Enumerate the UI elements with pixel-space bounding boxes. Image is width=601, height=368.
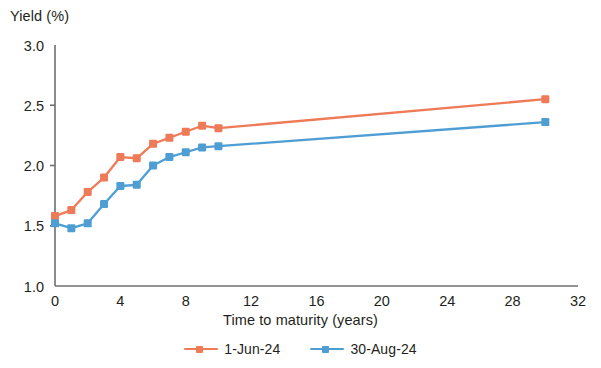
x-axis-tick-labels: 048121620242832 [51,293,586,309]
x-tick-label-4: 4 [116,293,124,309]
data-point-2-3 [100,200,108,208]
data-point-1-4 [116,153,124,161]
series-line-1 [55,99,545,216]
data-point-2-4 [116,182,124,190]
data-point-2-0 [51,219,59,227]
y-tick-label-3.0: 3.0 [24,38,44,54]
data-point-1-7 [165,134,173,142]
x-tick-label-8: 8 [182,293,190,309]
y-axis-tick-labels: 1.01.52.02.53.0 [24,38,44,295]
yield-curve-chart: Yield (%) 1.01.52.02.53.0 04812162024283… [0,0,601,368]
x-tick-label-32: 32 [570,293,586,309]
legend-swatch-series-1 [184,343,218,355]
data-point-2-30 [541,118,549,126]
x-axis-label: Time to maturity (years) [0,312,601,328]
legend-label-series-2: 30-Aug-24 [350,341,416,357]
data-point-1-3 [100,174,108,182]
data-point-2-1 [67,224,75,232]
y-tick-label-1.5: 1.5 [24,218,44,234]
data-point-1-1 [67,206,75,214]
series-1 [51,95,549,220]
data-point-1-8 [182,128,190,136]
x-tick-label-20: 20 [374,293,390,309]
y-tick-label-2.5: 2.5 [24,98,44,114]
legend-item-series-1[interactable]: 1-Jun-24 [184,341,280,357]
y-tick-label-1.0: 1.0 [24,279,44,295]
data-point-2-6 [149,162,157,170]
data-point-2-9 [198,143,206,151]
legend-label-series-1: 1-Jun-24 [224,341,280,357]
x-tick-label-24: 24 [439,293,455,309]
data-point-2-7 [165,153,173,161]
data-point-2-10 [214,142,222,150]
data-point-1-30 [541,95,549,103]
legend-item-series-2[interactable]: 30-Aug-24 [310,341,416,357]
data-point-1-10 [214,124,222,132]
x-tick-label-12: 12 [243,293,259,309]
x-tick-label-0: 0 [51,293,59,309]
x-tick-label-16: 16 [308,293,324,309]
series-line-2 [55,122,545,228]
y-tick-label-2.0: 2.0 [24,158,44,174]
data-point-1-2 [84,188,92,196]
chart-legend: 1-Jun-24 30-Aug-24 [0,341,601,357]
data-point-1-6 [149,140,157,148]
legend-swatch-series-2 [310,343,344,355]
data-point-1-0 [51,212,59,220]
data-point-1-5 [133,154,141,162]
data-point-2-2 [84,219,92,227]
data-point-1-9 [198,122,206,130]
data-point-2-8 [182,148,190,156]
data-point-2-5 [133,181,141,189]
data-series-layer [51,95,549,232]
x-tick-label-28: 28 [505,293,521,309]
series-2 [51,118,549,232]
